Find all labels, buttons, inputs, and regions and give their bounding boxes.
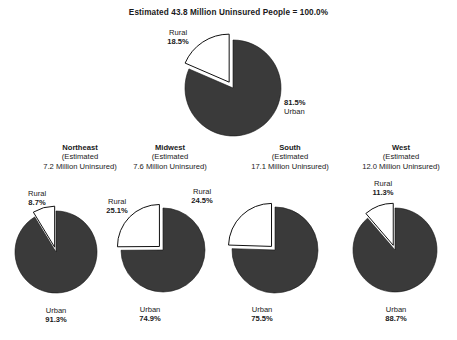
- pie-west: [352, 204, 446, 296]
- callout-west-urban: Urban 88.7%: [373, 305, 419, 324]
- pie-northeast: [12, 206, 104, 296]
- region-estimate-line1-west: (Estimated: [341, 152, 457, 161]
- region-estimate-line2-west: 12.0 Million Uninsured): [341, 162, 457, 171]
- region-estimate-line2-midwest: 7.6 Million Uninsured): [110, 162, 230, 171]
- pie-slice-urban: [353, 208, 437, 292]
- panel-heading-west: West (Estimated 12.0 Million Uninsured): [341, 143, 457, 171]
- panel-heading-midwest: Midwest (Estimated 7.6 Million Uninsured…: [110, 143, 230, 171]
- callout-west-rural-value: 11.3%: [360, 188, 406, 197]
- pie-slice-urban: [15, 211, 97, 293]
- callout-west-rural: Rural 11.3%: [360, 179, 406, 198]
- callout-northeast-urban: Urban 91.3%: [33, 306, 79, 325]
- region-estimate-line2-south: 17.1 Million Uninsured): [230, 162, 350, 171]
- callout-south-rural-value: 24.5%: [179, 196, 225, 205]
- callout-midwest-urban: Urban 74.9%: [127, 305, 173, 324]
- region-name-west: West: [341, 143, 457, 152]
- callout-national-urban-label: Urban: [284, 107, 306, 116]
- callout-national-rural: Rural 18.5%: [152, 28, 204, 47]
- callout-northeast-rural-value: 8.7%: [14, 198, 60, 207]
- callout-national-rural-label: Rural: [152, 28, 204, 37]
- region-name-midwest: Midwest: [110, 143, 230, 152]
- region-estimate-line1-midwest: (Estimated: [110, 152, 230, 161]
- region-name-south: South: [230, 143, 350, 152]
- callout-national-urban-value: 81.5%: [284, 98, 306, 107]
- callout-national-rural-value: 18.5%: [152, 37, 204, 46]
- callout-midwest-urban-label: Urban: [127, 305, 173, 314]
- callout-northeast-rural: Rural 8.7%: [14, 189, 60, 208]
- callout-south-urban-value: 75.5%: [239, 314, 285, 323]
- callout-national-urban: 81.5% Urban: [284, 98, 306, 117]
- pie-slice-rural: [229, 203, 272, 246]
- callout-south-urban: Urban 75.5%: [239, 305, 285, 324]
- callout-south-rural-label: Rural: [179, 187, 225, 196]
- callout-northeast-urban-value: 91.3%: [33, 315, 79, 324]
- pie-midwest: [112, 204, 208, 296]
- pie-chart-figure: Estimated 43.8 Million Uninsured People …: [0, 0, 457, 340]
- region-estimate-line1-south: (Estimated: [230, 152, 350, 161]
- callout-west-rural-label: Rural: [360, 179, 406, 188]
- pie-south: [224, 204, 322, 297]
- panel-heading-south: South (Estimated 17.1 Million Uninsured): [230, 143, 350, 171]
- callout-northeast-urban-label: Urban: [33, 306, 79, 315]
- callout-south-urban-label: Urban: [239, 305, 285, 314]
- callout-midwest-rural-value: 25.1%: [94, 206, 140, 215]
- callout-northeast-rural-label: Rural: [14, 189, 60, 198]
- callout-west-urban-value: 88.7%: [373, 314, 419, 323]
- callout-west-urban-label: Urban: [373, 305, 419, 314]
- callout-midwest-rural: Rural 25.1%: [94, 197, 140, 216]
- callout-south-rural: Rural 24.5%: [179, 187, 225, 206]
- callout-midwest-rural-label: Rural: [94, 197, 140, 206]
- figure-title: Estimated 43.8 Million Uninsured People …: [0, 8, 457, 17]
- callout-midwest-urban-value: 74.9%: [127, 314, 173, 323]
